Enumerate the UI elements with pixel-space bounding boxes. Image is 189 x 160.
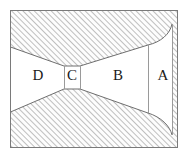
region-label-a: A — [158, 67, 169, 83]
diagram-canvas: D C B A — [0, 0, 189, 160]
region-label-b: B — [113, 67, 123, 83]
region-label-d: D — [33, 67, 44, 83]
region-label-c: C — [67, 67, 77, 83]
nozzle-diagram: D C B A — [0, 0, 189, 160]
